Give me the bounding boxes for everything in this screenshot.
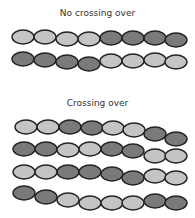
- gene-segment-dark: [101, 142, 123, 156]
- gene-segment-light: [165, 149, 187, 163]
- gene-segment-light: [79, 196, 101, 210]
- gene-segment-dark: [13, 186, 35, 200]
- gene-segment-light: [165, 171, 187, 185]
- gene-segment-light: [122, 54, 144, 68]
- gene-segment-dark: [79, 165, 101, 179]
- gene-segment-dark: [81, 121, 103, 135]
- gene-segment-dark: [122, 144, 144, 158]
- chromosome-crossing-3: [13, 165, 187, 185]
- gene-segment-dark: [144, 194, 166, 208]
- gene-segment-light: [57, 193, 79, 207]
- gene-segment-light: [144, 149, 166, 163]
- chromosome-crossing-4: [13, 186, 187, 210]
- gene-segment-light: [79, 142, 101, 156]
- gene-segment-dark: [165, 196, 187, 210]
- gene-segment-dark: [13, 142, 35, 156]
- chromosome-no-crossing-1: [12, 30, 187, 47]
- gene-segment-dark: [35, 190, 57, 204]
- gene-segment-dark: [101, 167, 123, 181]
- chromosome-diagram: [0, 0, 195, 218]
- gene-segment-dark: [34, 53, 56, 67]
- chromosome-crossing-2: [13, 142, 187, 163]
- gene-segment-light: [56, 32, 78, 46]
- gene-segment-dark: [100, 31, 122, 45]
- gene-segment-light: [15, 120, 37, 134]
- gene-segment-dark: [165, 132, 187, 146]
- gene-segment-light: [78, 32, 100, 46]
- gene-segment-light: [100, 54, 122, 68]
- gene-segment-light: [34, 30, 56, 44]
- gene-segment-light: [35, 165, 57, 179]
- gene-segment-light: [122, 196, 144, 210]
- gene-segment-dark: [122, 31, 144, 45]
- gene-segment-dark: [12, 52, 34, 66]
- gene-segment-light: [13, 165, 35, 179]
- gene-segment-light: [37, 120, 59, 134]
- gene-segment-light: [144, 53, 166, 67]
- gene-segment-dark: [165, 33, 187, 47]
- chromosome-no-crossing-2: [12, 52, 187, 71]
- gene-segment-dark: [59, 120, 81, 134]
- gene-segment-light: [101, 196, 123, 210]
- gene-segment-dark: [144, 127, 166, 141]
- gene-segment-light: [12, 30, 34, 44]
- gene-segment-light: [144, 169, 166, 183]
- gene-segment-light: [57, 143, 79, 157]
- gene-segment-dark: [35, 142, 57, 156]
- gene-segment-dark: [56, 55, 78, 69]
- gene-segment-dark: [57, 165, 79, 179]
- gene-segment-light: [102, 121, 124, 135]
- gene-segment-light: [123, 123, 145, 137]
- gene-segment-light: [165, 55, 187, 69]
- gene-segment-dark: [122, 171, 144, 185]
- gene-segment-dark: [78, 57, 100, 71]
- gene-segment-dark: [144, 31, 166, 45]
